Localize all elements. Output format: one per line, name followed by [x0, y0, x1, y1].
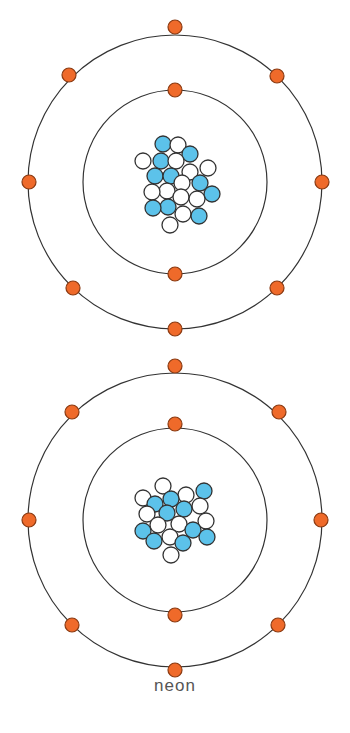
- electron: [168, 608, 182, 622]
- neutron: [175, 206, 191, 222]
- electron: [168, 267, 182, 281]
- neutron: [163, 547, 179, 563]
- electron: [168, 83, 182, 97]
- electron: [315, 175, 329, 189]
- atom-bottom: [22, 359, 328, 677]
- proton: [146, 533, 162, 549]
- proton: [160, 199, 176, 215]
- electron: [65, 405, 79, 419]
- proton: [153, 153, 169, 169]
- electron: [22, 175, 36, 189]
- atom-top: [22, 20, 329, 336]
- element-caption: neon: [0, 676, 350, 696]
- electron: [168, 359, 182, 373]
- electron: [168, 322, 182, 336]
- electron: [314, 513, 328, 527]
- electron: [22, 513, 36, 527]
- neutron: [200, 160, 216, 176]
- proton: [199, 529, 215, 545]
- neon-atom-diagram: [0, 0, 350, 733]
- neutron: [189, 191, 205, 207]
- neutron: [192, 498, 208, 514]
- proton: [175, 535, 191, 551]
- neutron: [150, 517, 166, 533]
- neutron: [162, 217, 178, 233]
- electron: [270, 69, 284, 83]
- electron: [168, 20, 182, 34]
- nucleus: [135, 136, 220, 233]
- neutron: [135, 153, 151, 169]
- electron: [66, 281, 80, 295]
- nucleus: [135, 478, 215, 563]
- neutron: [168, 153, 184, 169]
- electron: [62, 68, 76, 82]
- proton: [155, 136, 171, 152]
- electron: [168, 417, 182, 431]
- proton: [145, 200, 161, 216]
- electron: [168, 663, 182, 677]
- proton: [196, 483, 212, 499]
- electron: [270, 281, 284, 295]
- proton: [191, 208, 207, 224]
- neutron: [144, 184, 160, 200]
- proton: [176, 501, 192, 517]
- proton: [147, 168, 163, 184]
- electron: [65, 618, 79, 632]
- electron: [272, 405, 286, 419]
- proton: [204, 186, 220, 202]
- electron: [271, 618, 285, 632]
